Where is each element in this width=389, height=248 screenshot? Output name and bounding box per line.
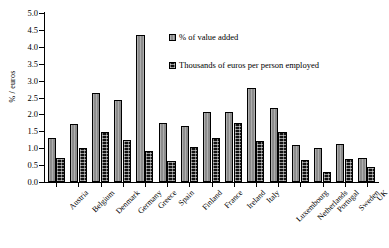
bar-group — [70, 13, 87, 182]
x-axis-tick — [212, 183, 213, 187]
y-axis-tick-label: 2.5 — [2, 94, 38, 103]
x-axis-category-label: Belgium — [91, 189, 116, 214]
bar — [101, 132, 109, 182]
y-axis-tick — [39, 64, 45, 65]
y-axis-tick — [39, 13, 45, 14]
bar-group — [247, 13, 264, 182]
y-axis-tick — [39, 165, 45, 166]
bar — [292, 145, 300, 182]
y-axis-tick — [39, 98, 45, 99]
y-axis-tick-label: 1.5 — [2, 127, 38, 136]
bar-group — [48, 13, 65, 182]
bar-group — [270, 13, 287, 182]
bar — [56, 158, 64, 182]
bar — [145, 151, 153, 182]
y-axis-tick-label: 2.0 — [2, 110, 38, 119]
x-axis-category-label: Ireland — [245, 189, 267, 211]
y-axis-tick — [39, 182, 45, 183]
y-axis-tick-label: 1.0 — [2, 144, 38, 153]
x-axis-tick — [145, 183, 146, 187]
y-axis-tick-label: 5.0 — [2, 9, 38, 18]
x-axis-tick — [256, 183, 257, 187]
bar — [136, 35, 144, 182]
x-axis-tick — [56, 183, 57, 187]
bar — [203, 112, 211, 182]
y-axis-tick-label: 4.0 — [2, 43, 38, 52]
bar-group — [358, 13, 375, 182]
bar — [345, 159, 353, 182]
bar-group — [114, 13, 131, 182]
bar — [256, 141, 264, 182]
x-axis-tick — [345, 183, 346, 187]
bar-group — [181, 13, 198, 182]
x-axis-category-label: Spain — [177, 189, 196, 208]
x-axis-category-label: Austria — [68, 189, 90, 211]
bar — [159, 123, 167, 182]
bar-group — [136, 13, 153, 182]
bar — [278, 132, 286, 182]
bar — [336, 144, 344, 182]
bar — [48, 138, 56, 182]
bar-group — [92, 13, 109, 182]
bar-group — [314, 13, 331, 182]
y-axis-tick-label: 0.0 — [2, 178, 38, 187]
x-axis-tick — [189, 183, 190, 187]
y-axis-tick-labels: 0.00.51.01.52.02.53.03.54.04.55.0 — [0, 0, 38, 248]
bar — [190, 147, 198, 182]
x-axis-category-label: France — [223, 189, 244, 210]
y-axis-tick — [39, 114, 45, 115]
y-axis-tick — [39, 30, 45, 31]
bar — [123, 140, 131, 182]
x-axis-tick — [78, 183, 79, 187]
x-axis-tick — [278, 183, 279, 187]
x-axis-tick — [234, 183, 235, 187]
y-axis-tick — [39, 47, 45, 48]
bar — [225, 112, 233, 182]
x-axis-tick — [101, 183, 102, 187]
x-axis-tick — [300, 183, 301, 187]
y-axis-tick-label: 3.5 — [2, 60, 38, 69]
bar-group — [225, 13, 242, 182]
y-axis-tick-label: 4.5 — [2, 26, 38, 35]
bar-group — [203, 13, 220, 182]
bar — [92, 93, 100, 182]
bar — [367, 167, 375, 182]
y-axis-tick-label: 3.0 — [2, 77, 38, 86]
bar — [167, 161, 175, 182]
bar — [70, 124, 78, 182]
x-axis-category-label: Italy — [265, 189, 281, 205]
bar-group — [292, 13, 309, 182]
bar — [314, 148, 322, 182]
x-axis-tick — [167, 183, 168, 187]
bar — [358, 158, 366, 182]
x-axis-tick — [323, 183, 324, 187]
y-axis-tick — [39, 81, 45, 82]
x-axis-category-label: Denmark — [114, 189, 141, 216]
bar — [114, 100, 122, 182]
bar — [247, 88, 255, 182]
x-axis-tick — [367, 183, 368, 187]
bar — [270, 108, 278, 182]
bar — [181, 126, 189, 182]
bar — [212, 138, 220, 182]
bar — [234, 123, 242, 182]
bar-group — [336, 13, 353, 182]
bar-group — [159, 13, 176, 182]
y-axis-tick-label: 0.5 — [2, 161, 38, 170]
y-axis-tick — [39, 131, 45, 132]
bar — [301, 160, 309, 182]
bar — [79, 148, 87, 182]
bar — [323, 172, 331, 182]
x-axis-category-label: Finland — [201, 189, 224, 212]
y-axis-tick — [39, 148, 45, 149]
x-axis-tick — [123, 183, 124, 187]
